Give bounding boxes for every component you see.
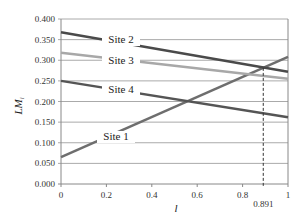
x-tick-label: 0.2 [101,190,112,200]
series-label-site-2: Site 2 [108,33,133,45]
series-label-site-4: Site 4 [108,83,134,95]
gridlines [58,19,288,184]
y-tick-label: 0.400 [35,14,56,24]
y-tick-label: 0.350 [35,35,56,45]
y-tick-label: 0.300 [35,55,56,65]
x-tick-label: 0.6 [192,190,204,200]
series-line-site-4 [61,81,288,117]
y-axis-label: LMi [12,97,26,115]
annotation-dashed-line: 0.891 [253,68,273,209]
y-tick-label: 0.100 [35,138,56,148]
x-tick-label: 0.8 [237,190,249,200]
y-tick-label: 0.250 [35,76,56,86]
y-tick-label: 0.050 [35,158,56,168]
series-line-site-1 [61,57,288,157]
y-axis-ticks: 0.0000.0500.1000.1500.2000.2500.3000.350… [35,14,56,189]
series-label-site-1: Site 1 [103,130,128,142]
x-tick-label: 0 [59,190,64,200]
series-label-site-3: Site 3 [108,54,134,66]
x-tick-label: 0.4 [146,190,158,200]
y-tick-label: 0.150 [35,117,56,127]
chart: 0.0000.0500.1000.1500.2000.2500.3000.350… [0,0,303,221]
series-lines [61,32,288,157]
annotation-label: 0.891 [253,199,273,209]
x-tick-label: 1 [286,190,291,200]
x-axis-label: l [174,202,177,214]
y-tick-label: 0.200 [35,97,56,107]
x-axis-ticks: 00.20.40.60.81 [59,184,291,200]
y-tick-label: 0.000 [35,179,56,189]
